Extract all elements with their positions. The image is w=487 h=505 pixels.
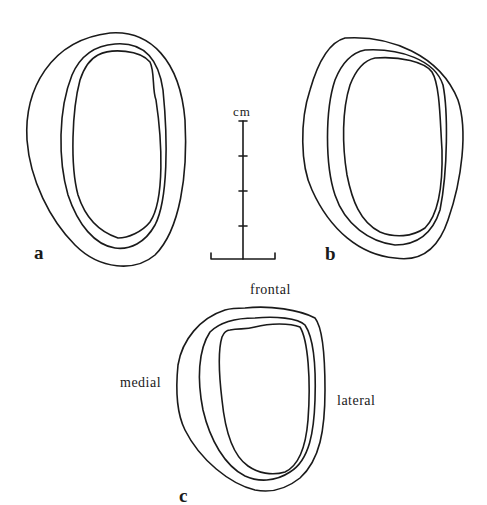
panel-b-middle-contour	[328, 50, 447, 245]
panel-c-inner-contour	[219, 324, 309, 474]
orientation-label-lateral: lateral	[337, 393, 375, 409]
panel-a-outlines	[27, 33, 186, 266]
panel-a-middle-contour	[61, 44, 166, 249]
panel-a-inner-contour	[73, 51, 161, 238]
orientation-label-medial: medial	[120, 375, 161, 391]
panel-c-middle-contour	[199, 317, 315, 480]
panel-b-inner-contour	[344, 58, 443, 236]
panel-b-outer-contour	[303, 38, 463, 259]
panel-c-outlines	[177, 307, 325, 491]
panel-label-a: a	[34, 242, 44, 264]
orientation-label-frontal: frontal	[250, 282, 291, 298]
scale-bar	[211, 121, 275, 259]
cross-section-figure	[0, 0, 487, 505]
panel-label-b: b	[325, 243, 336, 265]
scale-bar-unit-label: cm	[233, 104, 251, 120]
panel-label-c: c	[179, 485, 187, 505]
panel-b-outlines	[303, 38, 463, 259]
panel-a-outer-contour	[27, 33, 186, 266]
